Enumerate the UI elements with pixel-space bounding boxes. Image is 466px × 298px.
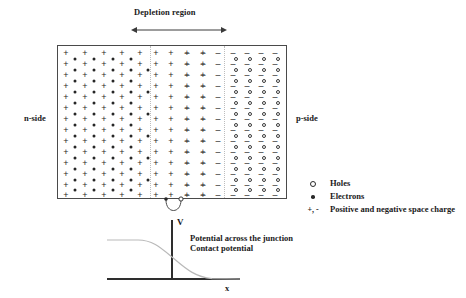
hole-carrier	[248, 57, 252, 61]
negative-charge-symbol: –	[184, 93, 189, 102]
negative-charge-symbol: –	[184, 148, 189, 157]
positive-charge-symbol: +	[137, 181, 142, 190]
hole-carrier	[234, 68, 238, 72]
electron-carrier	[74, 58, 77, 61]
electron-carrier	[130, 102, 133, 105]
positive-charge-symbol: +	[82, 148, 87, 157]
hole-carrier	[276, 188, 280, 192]
positive-charge-symbol: +	[153, 104, 158, 113]
positive-charge-symbol: +	[101, 71, 106, 80]
potential-caption-line-2: Contact potential	[190, 244, 253, 253]
negative-charge-symbol: –	[184, 82, 189, 91]
negative-charge-symbol: –	[200, 82, 205, 91]
hole-carrier	[262, 188, 266, 192]
negative-charge-symbol: –	[200, 191, 205, 200]
negative-charge-symbol: –	[184, 181, 189, 190]
negative-charge-symbol: –	[215, 159, 220, 168]
hole-carrier	[234, 178, 238, 182]
p-side-label: p-side	[296, 114, 318, 123]
positive-charge-symbol: +	[82, 93, 87, 102]
hole-carrier	[276, 145, 280, 149]
negative-charge-symbol: –	[184, 170, 189, 179]
hole-carrier	[276, 123, 280, 127]
electron-carrier	[93, 168, 96, 171]
positive-charge-symbol: +	[119, 159, 124, 168]
positive-charge-symbol: +	[63, 148, 68, 157]
hole-carrier	[234, 90, 238, 94]
electron-carrier	[112, 157, 115, 160]
v-axis-label: V	[177, 218, 184, 227]
positive-charge-symbol: +	[119, 148, 124, 157]
positive-charge-symbol: +	[137, 159, 142, 168]
hole-carrier	[234, 145, 238, 149]
positive-charge-symbol: +	[137, 71, 142, 80]
hole-carrier	[248, 123, 252, 127]
positive-charge-symbol: +	[82, 137, 87, 146]
electron-carrier	[130, 189, 133, 192]
hole-carrier	[234, 156, 238, 160]
electron-carrier	[130, 113, 133, 116]
positive-charge-symbol: +	[63, 159, 68, 168]
positive-charge-symbol: +	[63, 71, 68, 80]
positive-charge-symbol: +	[137, 49, 142, 58]
electron-carrier	[130, 179, 133, 182]
x-axis-label: x	[225, 284, 229, 293]
hole-carrier	[248, 178, 252, 182]
electron-carrier	[112, 135, 115, 138]
positive-charge-symbol: +	[101, 104, 106, 113]
electron-carrier	[93, 146, 96, 149]
positive-charge-symbol: +	[101, 181, 106, 190]
hole-carrier	[276, 134, 280, 138]
electron-carrier	[93, 135, 96, 138]
negative-charge-symbol: –	[215, 115, 220, 124]
electron-carrier	[93, 80, 96, 83]
positive-charge-symbol: +	[101, 159, 106, 168]
positive-charge-symbol: +	[168, 93, 173, 102]
negative-charge-symbol: –	[200, 93, 205, 102]
semiconductor-block: ++++++++++++++++++++++++++++++++++++++++…	[57, 45, 287, 199]
depletion-boundary-right-line	[224, 46, 225, 198]
electron-carrier	[112, 124, 115, 127]
negative-charge-symbol: –	[184, 126, 189, 135]
negative-charge-symbol: –	[184, 49, 189, 58]
negative-charge-symbol: –	[215, 71, 220, 80]
positive-charge-symbol: +	[153, 115, 158, 124]
electron-filled-dot-icon	[298, 190, 328, 203]
positive-charge-symbol: +	[101, 170, 106, 179]
depletion-boundary-left-line	[150, 46, 151, 198]
electron-carrier	[130, 157, 133, 160]
hole-carrier	[234, 57, 238, 61]
positive-charge-symbol: +	[168, 115, 173, 124]
hole-carrier	[248, 134, 252, 138]
hole-carrier	[276, 90, 280, 94]
positive-charge-symbol: +	[119, 137, 124, 146]
positive-charge-symbol: +	[82, 115, 87, 124]
positive-charge-symbol: +	[168, 148, 173, 157]
electron-carrier	[93, 69, 96, 72]
positive-charge-symbol: +	[63, 181, 68, 190]
positive-charge-symbol: +	[63, 104, 68, 113]
positive-charge-symbol: +	[82, 126, 87, 135]
positive-charge-symbol: +	[101, 49, 106, 58]
hole-carrier	[262, 145, 266, 149]
negative-charge-symbol: –	[200, 137, 205, 146]
electron-carrier	[93, 189, 96, 192]
hole-carrier	[276, 178, 280, 182]
hole-carrier	[248, 145, 252, 149]
hole-carrier	[234, 112, 238, 116]
positive-charge-symbol: +	[82, 191, 87, 200]
positive-charge-symbol: +	[63, 49, 68, 58]
hole-carrier	[276, 167, 280, 171]
positive-charge-symbol: +	[153, 71, 158, 80]
positive-charge-symbol: +	[82, 159, 87, 168]
positive-charge-symbol: +	[101, 115, 106, 124]
positive-charge-symbol: +	[101, 126, 106, 135]
electron-carrier	[130, 69, 133, 72]
positive-charge-symbol: +	[119, 170, 124, 179]
positive-charge-symbol: +	[82, 170, 87, 179]
hole-carrier	[276, 112, 280, 116]
electron-carrier	[112, 179, 115, 182]
hole-carrier	[276, 68, 280, 72]
electron-carrier	[112, 69, 115, 72]
hole-carrier	[234, 123, 238, 127]
